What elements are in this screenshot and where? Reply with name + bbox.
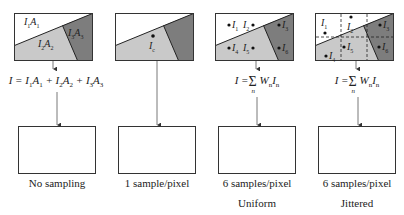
caption-one-sample: 1 sample/pixel: [125, 177, 189, 189]
uniform-label-5: I5: [243, 42, 249, 55]
region-label-2: I2A2: [38, 38, 53, 51]
equation-uniform: I =Σn WnIn: [235, 74, 280, 90]
subcaption-jittered: Jittered: [341, 197, 373, 209]
uniform-label-3: I3: [282, 19, 288, 32]
uniform-label-4: I4: [232, 42, 238, 55]
region-label-1: I1A1: [24, 16, 39, 29]
result-box-jittered: [319, 127, 396, 174]
result-box-uniform: [219, 127, 296, 174]
sample-point-center: [151, 34, 155, 38]
uniform-label-1: I1: [232, 19, 238, 32]
jitter-label-4: I4: [329, 50, 335, 63]
subcaption-uniform: Uniform: [238, 197, 276, 209]
sample-label-center: Ic: [149, 40, 155, 53]
jitter-label-5: I5: [347, 41, 353, 54]
uniform-label-6: I6: [282, 42, 288, 55]
caption-no-sampling: No sampling: [29, 177, 86, 189]
jitter-label-1: I1: [321, 17, 327, 30]
caption-uniform: 6 samples/pixel: [223, 177, 292, 189]
equation-no-sampling: I = I1A1 + I2A2 + I3A3: [9, 74, 104, 89]
jitter-label-2: I2: [347, 21, 353, 34]
equation-jittered: I =Σn WnIn: [335, 74, 380, 90]
jitter-label-6: I6: [382, 41, 388, 54]
result-box-no-sampling: [19, 127, 96, 174]
region-label-3: I3A3: [68, 27, 83, 40]
uniform-label-2: I2: [243, 19, 249, 32]
pixel-box-one-sample: [116, 14, 194, 61]
jitter-label-3: I3: [383, 19, 389, 32]
result-box-one-sample: [119, 127, 196, 174]
caption-jittered: 6 samples/pixel: [323, 177, 392, 189]
